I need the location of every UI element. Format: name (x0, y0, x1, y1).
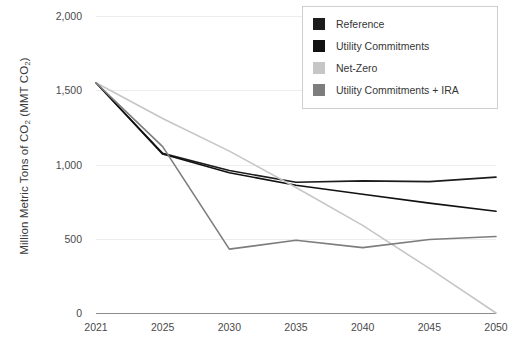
legend-item-utility-commitments[interactable]: Utility Commitments (313, 36, 489, 56)
chart-legend: Reference Utility Commitments Net-Zero U… (302, 6, 498, 109)
series-line-net-zero (96, 83, 496, 313)
legend-label-net-zero: Net-Zero (336, 62, 377, 74)
x-tick-label: 2040 (333, 321, 393, 333)
x-tick-label: 2035 (266, 321, 326, 333)
legend-label-utility-commitments-ira: Utility Commitments + IRA (336, 84, 459, 96)
legend-item-net-zero[interactable]: Net-Zero (313, 58, 489, 78)
legend-swatch-utility-commitments-ira (313, 84, 325, 96)
x-tick-label: 2021 (66, 321, 126, 333)
x-tick-label: 2045 (399, 321, 459, 333)
legend-swatch-utility-commitments (313, 40, 325, 52)
legend-label-reference: Reference (336, 18, 384, 30)
x-tick-label: 2050 (466, 321, 512, 333)
legend-label-utility-commitments: Utility Commitments (336, 40, 429, 52)
x-tick-label: 2025 (133, 321, 193, 333)
legend-item-reference[interactable]: Reference (313, 14, 489, 34)
legend-swatch-reference (313, 18, 325, 30)
legend-item-utility-commitments-ira[interactable]: Utility Commitments + IRA (313, 80, 489, 100)
x-tick-label: 2030 (199, 321, 259, 333)
legend-swatch-net-zero (313, 62, 325, 74)
